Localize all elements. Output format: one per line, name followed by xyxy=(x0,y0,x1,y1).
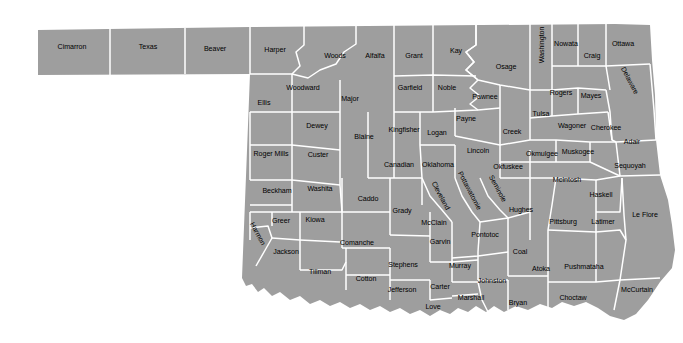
map-shape-layer xyxy=(0,0,683,343)
oklahoma-county-map: CimarronTexasBeaverHarperWoodsAlfalfaGra… xyxy=(0,0,683,343)
region-panhandle xyxy=(38,27,250,75)
